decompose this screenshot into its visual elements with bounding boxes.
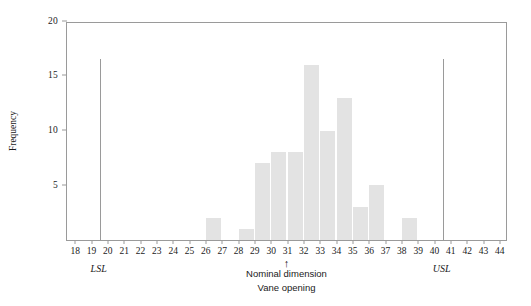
y-tick-20: 20 [27,20,67,21]
x-tick-label: 19 [87,246,97,256]
x-tick-mark [205,240,206,244]
x-tick-24: 24 [165,240,181,258]
x-tick-label: 42 [462,246,472,256]
x-tick-mark [140,240,141,244]
histogram-bar [271,152,286,240]
usl-line [443,59,444,240]
x-tick-mark [173,240,174,244]
x-tick-mark [303,240,304,244]
x-tick-label: 33 [315,246,325,256]
x-tick-label: 29 [250,246,260,256]
x-tick-label: 18 [70,246,80,256]
x-tick-mark [75,240,76,244]
x-tick-36: 36 [361,240,377,258]
x-tick-mark [271,240,272,244]
x-tick-mark [222,240,223,244]
y-tick-15: 15 [27,74,67,75]
x-tick-38: 38 [394,240,410,258]
x-tick-19: 19 [84,240,100,258]
histogram-bar [402,218,417,240]
y-tick-5: 5 [27,184,67,185]
x-tick-32: 32 [296,240,312,258]
x-tick-mark [450,240,451,244]
x-tick-34: 34 [329,240,345,258]
x-tick-label: 38 [397,246,407,256]
x-tick-18: 18 [67,240,83,258]
histogram-bar [206,218,221,240]
x-tick-25: 25 [182,240,198,258]
x-tick-33: 33 [312,240,328,258]
x-tick-label: 35 [348,246,358,256]
x-tick-label: 21 [119,246,129,256]
histogram-bar [239,229,254,240]
x-tick-mark [287,240,288,244]
x-tick-label: 24 [168,246,178,256]
x-tick-44: 44 [492,240,508,258]
x-tick-label: 40 [430,246,440,256]
x-tick-label: 37 [381,246,391,256]
x-tick-label: 31 [283,246,293,256]
x-tick-mark [483,240,484,244]
lsl-label: LSL [91,263,107,274]
x-tick-39: 39 [410,240,426,258]
x-tick-40: 40 [427,240,443,258]
y-axis-title: Frequency [8,111,18,151]
x-tick-mark [107,240,108,244]
x-tick-28: 28 [231,240,247,258]
histogram-bar [255,163,270,240]
x-tick-mark [238,240,239,244]
y-tick-mark [62,184,67,185]
x-tick-35: 35 [345,240,361,258]
x-tick-41: 41 [443,240,459,258]
x-tick-label: 43 [479,246,489,256]
y-tick-mark [62,20,67,21]
x-tick-21: 21 [116,240,132,258]
y-tick-label: 15 [48,70,58,80]
x-tick-label: 36 [364,246,374,256]
x-tick-mark [91,240,92,244]
x-tick-mark [156,240,157,244]
x-tick-43: 43 [476,240,492,258]
nominal-dimension-arrow-icon: ↑ [284,259,290,267]
x-tick-mark [320,240,321,244]
x-tick-31: 31 [280,240,296,258]
y-tick-label: 20 [48,15,58,25]
x-tick-mark [401,240,402,244]
x-tick-label: 20 [103,246,113,256]
x-tick-27: 27 [214,240,230,258]
x-tick-22: 22 [133,240,149,258]
x-tick-label: 22 [136,246,146,256]
x-tick-mark [124,240,125,244]
x-tick-29: 29 [247,240,263,258]
x-tick-30: 30 [263,240,279,258]
x-tick-23: 23 [149,240,165,258]
x-tick-mark [369,240,370,244]
y-tick-label: 10 [48,125,58,135]
y-tick-mark [62,130,67,131]
x-tick-42: 42 [459,240,475,258]
y-tick-mark [62,75,67,76]
x-tick-mark [467,240,468,244]
plot-area: 5101520 18192021222324252627282930313233… [66,22,507,241]
histogram-bar [337,98,352,240]
x-tick-20: 20 [100,240,116,258]
x-tick-mark [336,240,337,244]
x-tick-label: 27 [217,246,227,256]
x-tick-mark [434,240,435,244]
x-tick-mark [352,240,353,244]
x-tick-label: 25 [185,246,195,256]
histogram-bar [353,207,368,240]
x-tick-mark [385,240,386,244]
x-tick-mark [499,240,500,244]
x-tick-mark [254,240,255,244]
histogram-bar [369,185,384,240]
lsl-line [100,59,101,240]
x-tick-mark [189,240,190,244]
x-tick-label: 30 [266,246,276,256]
x-tick-label: 39 [413,246,423,256]
x-tick-mark [418,240,419,244]
x-tick-label: 26 [201,246,211,256]
y-tick-10: 10 [27,129,67,130]
x-tick-26: 26 [198,240,214,258]
x-tick-label: 28 [234,246,244,256]
